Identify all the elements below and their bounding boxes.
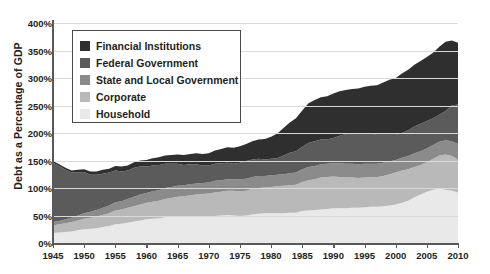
legend-swatch-icon	[80, 109, 90, 119]
x-axis-tick-label: 1965	[167, 250, 188, 261]
gridline	[53, 216, 458, 217]
y-axis-tick-labels: 0%50%100%150%200%250%300%350%400%	[8, 0, 52, 274]
y-axis-tick-label: 200%	[12, 128, 52, 139]
x-axis-tick-label: 1970	[198, 250, 219, 261]
x-axis-tick-mark	[209, 243, 210, 248]
x-axis-tick-label: 1995	[354, 250, 375, 261]
legend-item-label: Federal Government	[96, 57, 198, 69]
legend-swatch-icon	[80, 41, 90, 51]
x-axis-tick-label: 2010	[447, 250, 468, 261]
x-axis-tick-mark	[427, 243, 428, 248]
legend-item-label: State and Local Government	[96, 74, 238, 86]
y-axis-tick-label: 300%	[12, 73, 52, 84]
x-axis-tick-mark	[240, 243, 241, 248]
x-axis-tick-label: 1960	[136, 250, 157, 261]
legend-swatch-icon	[80, 75, 90, 85]
legend-swatch-icon	[80, 58, 90, 68]
debt-to-gdp-stacked-area-chart: Debt as a Percentage of GDP 0%50%100%150…	[0, 0, 490, 274]
x-axis-tick-mark	[271, 243, 272, 248]
gridline	[53, 23, 458, 24]
legend-swatch-icon	[80, 92, 90, 102]
x-axis-tick-mark	[84, 243, 85, 248]
legend-item-label: Financial Institutions	[96, 40, 201, 52]
gridline	[53, 188, 458, 189]
x-axis-tick-mark	[115, 243, 116, 248]
x-axis-tick-mark	[178, 243, 179, 248]
legend-item: Household	[80, 105, 233, 122]
x-axis-tick-label: 1985	[292, 250, 313, 261]
y-axis-tick-label: 0%	[12, 238, 52, 249]
y-axis-line	[52, 20, 54, 246]
gridline	[53, 161, 458, 162]
x-axis-tick-mark	[396, 243, 397, 248]
x-axis-tick-label: 2000	[385, 250, 406, 261]
y-axis-tick-label: 250%	[12, 100, 52, 111]
x-axis-tick-label: 1975	[229, 250, 250, 261]
y-axis-tick-label: 150%	[12, 155, 52, 166]
gridline	[53, 133, 458, 134]
legend-item-label: Household	[96, 108, 150, 120]
legend-item: State and Local Government	[80, 71, 233, 88]
chart-legend: Financial InstitutionsFederal Government…	[72, 30, 241, 123]
x-axis-tick-label: 1950	[74, 250, 95, 261]
y-axis-tick-label: 350%	[12, 45, 52, 56]
x-axis-tick-label: 1955	[105, 250, 126, 261]
y-axis-tick-label: 100%	[12, 183, 52, 194]
x-axis-tick-mark	[333, 243, 334, 248]
x-axis-tick-mark	[302, 243, 303, 248]
x-axis-line	[52, 243, 459, 245]
y-axis-tick-label: 50%	[12, 210, 52, 221]
x-axis-tick-label: 1990	[323, 250, 344, 261]
x-axis-tick-label: 2005	[416, 250, 437, 261]
x-axis-tick-mark	[146, 243, 147, 248]
x-axis-tick-label: 1980	[260, 250, 281, 261]
x-axis-tick-mark	[53, 243, 54, 248]
x-axis-tick-mark	[458, 243, 459, 248]
legend-item: Corporate	[80, 88, 233, 105]
y-axis-tick-label: 400%	[12, 18, 52, 29]
x-axis-tick-label: 1945	[42, 250, 63, 261]
legend-item: Financial Institutions	[80, 37, 233, 54]
legend-item: Federal Government	[80, 54, 233, 71]
x-axis-tick-mark	[365, 243, 366, 248]
legend-item-label: Corporate	[96, 91, 146, 103]
